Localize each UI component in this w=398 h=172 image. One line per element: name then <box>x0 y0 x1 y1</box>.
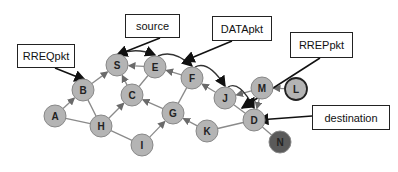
node-label: N <box>276 137 283 148</box>
node-label: G <box>169 108 177 119</box>
node-C: C <box>121 84 143 106</box>
edge-G-F <box>178 88 187 104</box>
network-diagram: ABSECHIGFJMLDKN RREQpkt source DATApkt R… <box>0 0 398 172</box>
edge-G-C <box>143 100 163 109</box>
edge-C-S <box>122 76 127 85</box>
node-E: E <box>144 56 166 78</box>
node-label: C <box>128 90 135 101</box>
edge-E-S <box>129 66 144 67</box>
node-label: B <box>79 85 86 96</box>
edge-A-H <box>66 118 91 123</box>
node-G: G <box>162 102 184 124</box>
node-label: E <box>152 62 159 73</box>
node-F: F <box>181 67 203 89</box>
edge-B-H <box>88 100 96 116</box>
edge-H-C <box>109 103 124 118</box>
node-J: J <box>214 87 236 109</box>
edge-K-G <box>184 119 198 126</box>
callout-rrep-label: RREPpkt <box>290 32 353 58</box>
node-M: M <box>251 77 273 99</box>
node-label: I <box>141 140 144 151</box>
callout-source-label: source <box>125 14 180 38</box>
node-label: J <box>222 93 228 104</box>
node-H: H <box>90 115 112 137</box>
callout-arrow-data <box>184 41 232 61</box>
callout-arrow-source <box>117 38 160 55</box>
network-graph: ABSECHIGFJMLDKN <box>0 0 398 172</box>
node-label: D <box>250 115 257 126</box>
callout-arrow-destination <box>258 116 312 120</box>
callout-rreq-label: RREQpkt <box>17 44 75 68</box>
edge-D-N <box>262 127 271 135</box>
nodes-layer: ABSECHIGFJMLDKN <box>44 54 307 156</box>
node-label: H <box>97 121 104 132</box>
node-N: N <box>269 131 291 153</box>
node-label: K <box>203 126 211 137</box>
node-S: S <box>106 54 128 76</box>
edge-H-I <box>111 131 132 141</box>
node-D: D <box>243 109 265 131</box>
node-label: A <box>51 111 58 122</box>
callout-data-label: DATApkt <box>212 16 272 41</box>
edge-M-D <box>257 99 259 109</box>
edge-I-G <box>150 122 165 137</box>
node-A: A <box>44 105 66 127</box>
callout-destination-label: destination <box>312 105 390 130</box>
edge-J-D <box>234 105 245 114</box>
node-label: F <box>189 73 195 84</box>
node-label: M <box>258 83 266 94</box>
edge-C-E <box>139 75 148 86</box>
node-L: L <box>285 78 307 100</box>
node-label: S <box>114 60 121 71</box>
edge-B-S <box>92 72 107 83</box>
edge-A-B <box>63 98 74 108</box>
edge-K-D <box>218 123 244 129</box>
node-B: B <box>72 79 94 101</box>
edge-F-E <box>167 70 182 74</box>
callout-arrow-rreq <box>55 68 85 80</box>
edge-J-F <box>202 84 215 92</box>
node-K: K <box>196 120 218 142</box>
node-label: L <box>293 84 299 95</box>
node-I: I <box>131 134 153 156</box>
